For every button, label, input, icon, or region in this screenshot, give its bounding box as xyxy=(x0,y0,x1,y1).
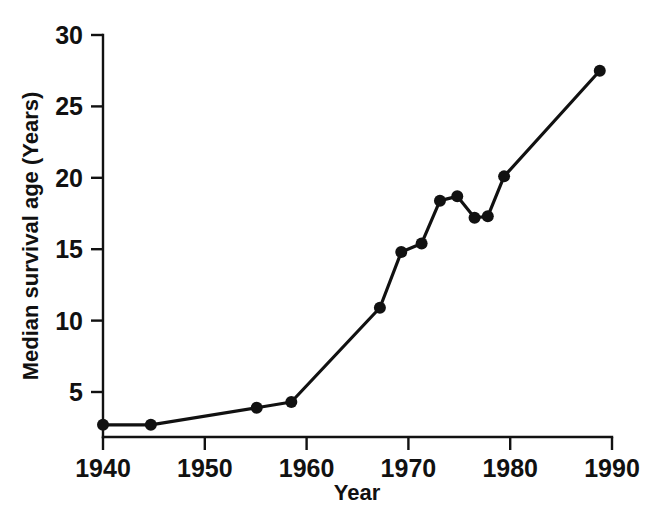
y-axis-title: Median survival age (Years) xyxy=(18,92,43,381)
y-tick-label: 10 xyxy=(55,307,83,335)
chart-container: 51015202530194019501960197019801990 Year… xyxy=(0,0,650,521)
data-point xyxy=(594,65,606,77)
chart-tick-labels: 51015202530194019501960197019801990 xyxy=(55,21,640,482)
line-chart: 51015202530194019501960197019801990 Year… xyxy=(0,0,650,521)
y-tick-label: 15 xyxy=(55,235,83,263)
x-axis-title: Year xyxy=(334,480,381,505)
x-tick-label: 1990 xyxy=(584,454,640,482)
data-point xyxy=(451,190,463,202)
chart-axes xyxy=(103,35,612,437)
data-point xyxy=(285,396,297,408)
data-point xyxy=(251,402,263,414)
data-point xyxy=(434,195,446,207)
x-tick-label: 1950 xyxy=(177,454,233,482)
y-tick-label: 5 xyxy=(69,378,83,406)
data-point xyxy=(482,210,494,222)
data-point xyxy=(374,302,386,314)
chart-ticks xyxy=(91,35,612,450)
data-point xyxy=(97,419,109,431)
y-tick-label: 30 xyxy=(55,21,83,49)
data-point xyxy=(145,419,157,431)
x-tick-label: 1980 xyxy=(482,454,538,482)
x-tick-label: 1940 xyxy=(75,454,131,482)
x-tick-label: 1970 xyxy=(381,454,437,482)
x-tick-label: 1960 xyxy=(279,454,335,482)
y-tick-label: 20 xyxy=(55,164,83,192)
y-tick-label: 25 xyxy=(55,92,83,120)
series-line xyxy=(103,71,600,425)
data-point xyxy=(416,237,428,249)
data-point xyxy=(498,170,510,182)
chart-markers xyxy=(97,65,606,431)
chart-series xyxy=(103,71,600,425)
data-point xyxy=(469,212,481,224)
data-point xyxy=(395,246,407,258)
